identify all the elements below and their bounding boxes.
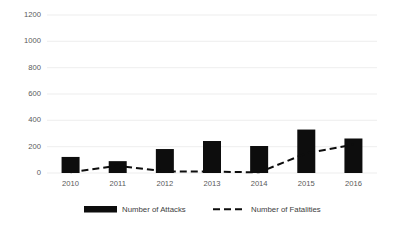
y-tick-1000: 1000 [24, 36, 41, 45]
y-tick-400: 400 [28, 115, 41, 124]
x-tick-2010: 2010 [62, 179, 79, 188]
legend-label-fatalities: Number of Fatalities [251, 205, 321, 214]
bar-2014 [250, 146, 268, 173]
y-tick-600: 600 [28, 89, 41, 98]
y-tick-0: 0 [37, 168, 41, 177]
x-tick-2011: 2011 [110, 179, 126, 188]
bar-2016 [344, 139, 362, 174]
legend-swatch-attacks [84, 206, 117, 213]
x-tick-2012: 2012 [156, 179, 173, 188]
y-axis-labels: 1200 1000 800 600 400 200 0 [24, 10, 41, 177]
chart-container: 1200 1000 800 600 400 200 0 201020112012… [0, 0, 398, 230]
chart-legend: Number of Attacks Number of Fatalities [84, 205, 321, 214]
x-tick-2014: 2014 [251, 179, 268, 188]
y-tick-1200: 1200 [24, 10, 41, 19]
legend-label-attacks: Number of Attacks [122, 205, 186, 214]
bar-2013 [203, 141, 221, 173]
chart-canvas: 1200 1000 800 600 400 200 0 201020112012… [0, 0, 398, 230]
y-tick-200: 200 [28, 142, 41, 151]
bar-2012 [156, 149, 174, 173]
x-tick-2015: 2015 [298, 179, 315, 188]
x-tick-2013: 2013 [204, 179, 221, 188]
x-tick-2016: 2016 [345, 179, 362, 188]
bar-2011 [109, 161, 127, 173]
x-axis-labels: 2010201120122013201420152016 [62, 179, 362, 188]
y-tick-800: 800 [28, 63, 41, 72]
